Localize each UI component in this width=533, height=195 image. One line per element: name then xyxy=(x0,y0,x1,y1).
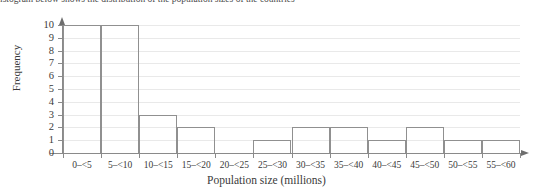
y-axis-arrow-icon xyxy=(59,17,65,25)
x-axis-tick xyxy=(292,153,293,158)
x-axis-tick xyxy=(520,153,521,158)
y-axis-tick-label: 10 xyxy=(38,20,54,30)
x-axis-tick xyxy=(101,153,102,158)
x-axis-tick xyxy=(63,153,64,158)
histogram-bar xyxy=(406,127,444,153)
y-axis-tick-label: 0 xyxy=(38,148,54,158)
histogram-bar xyxy=(368,140,406,153)
x-axis-tick xyxy=(444,153,445,158)
x-axis-tick xyxy=(215,153,216,158)
histogram-bar xyxy=(101,25,139,153)
x-axis-title: Population size (millions) xyxy=(0,174,533,186)
x-axis-arrow-icon xyxy=(521,150,529,156)
x-axis-tick xyxy=(139,153,140,158)
y-axis-tick-label: 3 xyxy=(38,110,54,120)
histogram-bar xyxy=(63,25,101,153)
x-axis-tick xyxy=(368,153,369,158)
histogram-bar xyxy=(330,127,368,153)
y-axis-tick-label: 5 xyxy=(38,84,54,94)
x-axis-line xyxy=(50,153,522,154)
y-axis-tick-label: 4 xyxy=(38,97,54,107)
y-axis-tick-label: 2 xyxy=(38,122,54,132)
x-axis-tick xyxy=(406,153,407,158)
x-axis-tick xyxy=(177,153,178,158)
y-axis-tick-label: 8 xyxy=(38,46,54,56)
histogram-figure: Frequency Population size (millions) 012… xyxy=(0,0,533,195)
y-axis-title: Frequency xyxy=(10,28,26,108)
y-axis-tick-label: 1 xyxy=(38,135,54,145)
histogram-bar xyxy=(482,140,520,153)
histogram-bar xyxy=(253,140,291,153)
x-axis-tick-label: 55–<60 xyxy=(476,160,526,171)
x-axis-tick xyxy=(253,153,254,158)
histogram-bar xyxy=(292,127,330,153)
x-axis-tick xyxy=(330,153,331,158)
y-axis-tick-label: 9 xyxy=(38,33,54,43)
y-axis-tick-label: 6 xyxy=(38,71,54,81)
histogram-bar xyxy=(139,115,177,153)
histogram-bar xyxy=(177,127,215,153)
histogram-bar xyxy=(444,140,482,153)
y-axis-tick-label: 7 xyxy=(38,58,54,68)
x-axis-tick xyxy=(482,153,483,158)
